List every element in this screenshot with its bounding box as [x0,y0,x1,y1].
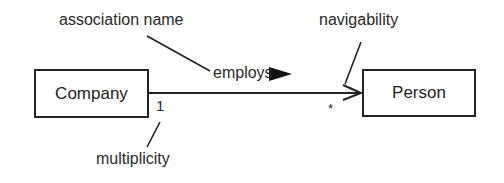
class-person: Person [362,69,476,117]
class-company: Company [34,69,149,118]
source-multiplicity: 1 [156,97,164,114]
navigability-annotation: navigability [319,11,398,29]
association-name-annotation: association name [59,11,184,29]
multiplicity-annotation: multiplicity [96,150,170,168]
target-multiplicity: * [328,101,333,116]
association-label: employs [213,64,273,82]
class-company-name: Company [55,84,128,104]
class-person-name: Person [392,83,446,103]
